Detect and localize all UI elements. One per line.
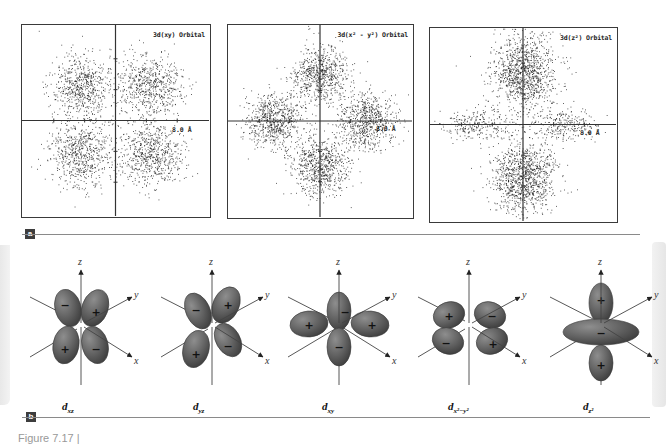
scatter-plot-dxy [22,25,209,216]
orbital-dxy: +−+−zyx [270,245,400,395]
svg-text:z: z [335,256,340,267]
svg-text:−: − [340,306,349,319]
plot-title-dx2y2: 3d(x² - y²) Orbital [337,31,408,39]
scatter-panel-dxy: 3d(xy) Orbital 8.0 Å [21,24,211,218]
svg-text:+: + [91,306,100,319]
svg-text:−: − [191,304,200,317]
svg-text:z: z [465,256,470,267]
svg-text:z: z [208,256,213,267]
svg-text:−: − [91,343,100,356]
divider-b [22,417,650,418]
page-edge-left [0,245,10,405]
svg-text:x: x [133,355,139,366]
scatter-panel-dx2y2: 3d(x² - y²) Orbital 8.0 Å [227,24,414,219]
svg-text:−: − [223,340,232,353]
label-dyz: dyz [193,400,204,415]
scale-label-dxy: 8.0 Å [172,126,192,134]
orbital-dyz: −++−zyx [143,245,273,395]
svg-text:x: x [391,355,397,366]
plot-title-dxy: 3d(xy) Orbital [153,31,205,39]
divider-a [22,234,640,235]
svg-text:y: y [653,289,659,300]
scatter-panel-dz2: 3d(z²) Orbital 8.0 Å [429,27,618,223]
label-dz2: dz² [583,400,593,415]
svg-text:x: x [653,355,659,366]
svg-text:y: y [521,289,527,300]
svg-text:z: z [77,256,82,267]
plot-title-dz2: 3d(z²) Orbital [560,34,612,42]
scale-label-dx2y2: 8.0 Å [376,125,396,133]
svg-text:−: − [60,299,69,312]
svg-text:+: + [60,343,69,356]
svg-text:−: − [441,337,450,350]
svg-text:+: + [596,359,605,372]
svg-text:y: y [391,289,397,300]
label-dxy: dxy [322,400,334,415]
svg-text:−: − [596,327,605,340]
label-dxz: dxz [62,400,74,415]
svg-text:+: + [444,310,453,323]
orbital-dz2: +−+zyx [532,245,662,395]
svg-text:z: z [597,256,602,267]
svg-text:+: + [223,299,232,312]
svg-text:+: + [367,319,376,332]
svg-text:−: − [334,341,343,354]
scale-label-dz2: 8.0 Å [580,129,600,137]
orbital-dxz: −++−zyx [12,245,142,395]
figure-caption: Figure 7.17 | [18,432,80,444]
scatter-plot-dz2 [430,28,616,221]
scatter-plot-dx2y2 [228,25,412,217]
svg-text:+: + [304,319,313,332]
svg-text:y: y [133,289,139,300]
label-dx2y2: dx²−y² [448,400,469,415]
svg-text:x: x [521,355,527,366]
svg-text:+: + [191,348,200,361]
orbital-dx2y2: +−−+zyx [400,245,530,395]
